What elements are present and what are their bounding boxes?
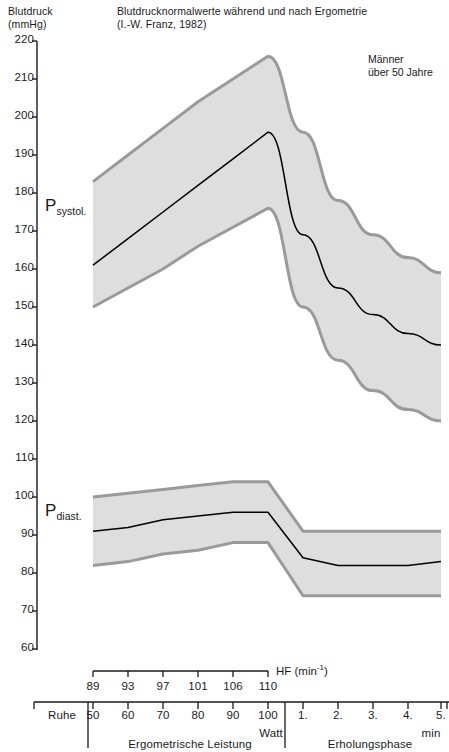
plot-surface (0, 0, 449, 752)
blood-pressure-ergometry-chart: Blutdruck (mmHg) Blutdrucknormalwerte wä… (0, 0, 449, 752)
band-fill-pdiast (93, 482, 441, 596)
band-fill-psystol (93, 56, 441, 421)
